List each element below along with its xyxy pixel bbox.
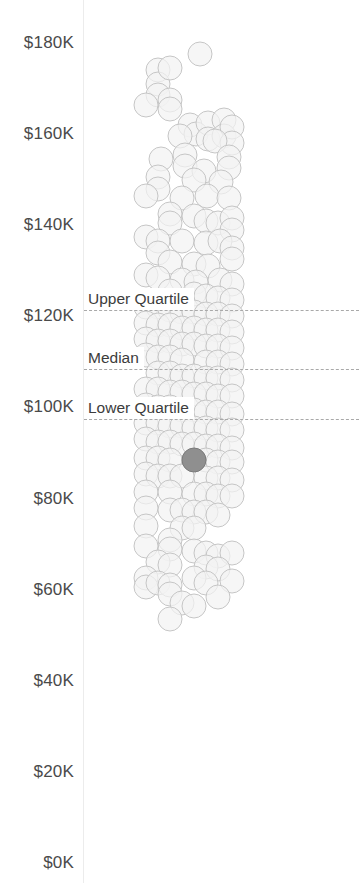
y-axis-tick-label: $60K	[33, 580, 74, 600]
y-axis-tick-label: $40K	[33, 671, 74, 691]
reference-label-lower-quartile: Lower Quartile	[84, 397, 194, 419]
reference-label-upper-quartile: Upper Quartile	[84, 288, 194, 310]
y-axis-tick-label: $20K	[33, 762, 74, 782]
data-point[interactable]	[158, 56, 183, 81]
y-axis: $180K$160K$140K$120K$100K$80K$60K$40K$20…	[0, 0, 84, 883]
y-axis-tick-label: $100K	[24, 397, 74, 417]
y-axis-tick-label: $160K	[24, 124, 74, 144]
y-axis-tick-label: $80K	[33, 489, 74, 509]
data-point[interactable]	[182, 593, 207, 618]
data-point[interactable]	[134, 92, 159, 117]
data-point[interactable]	[182, 516, 207, 541]
data-point[interactable]	[188, 42, 213, 67]
data-point[interactable]	[206, 584, 231, 609]
y-axis-tick-label: $120K	[24, 306, 74, 326]
data-point[interactable]	[158, 607, 183, 632]
plot-area: Upper QuartileMedianLower Quartile	[84, 0, 359, 883]
data-point[interactable]	[206, 502, 231, 527]
salary-distribution-chart: $180K$160K$140K$120K$100K$80K$60K$40K$20…	[0, 0, 359, 883]
data-point-highlighted[interactable]	[182, 447, 207, 472]
y-axis-tick-label: $140K	[24, 215, 74, 235]
reference-label-median: Median	[84, 347, 144, 369]
data-point[interactable]	[134, 183, 159, 208]
y-axis-tick-label: $180K	[24, 33, 74, 53]
y-axis-tick-label: $0K	[43, 853, 74, 873]
